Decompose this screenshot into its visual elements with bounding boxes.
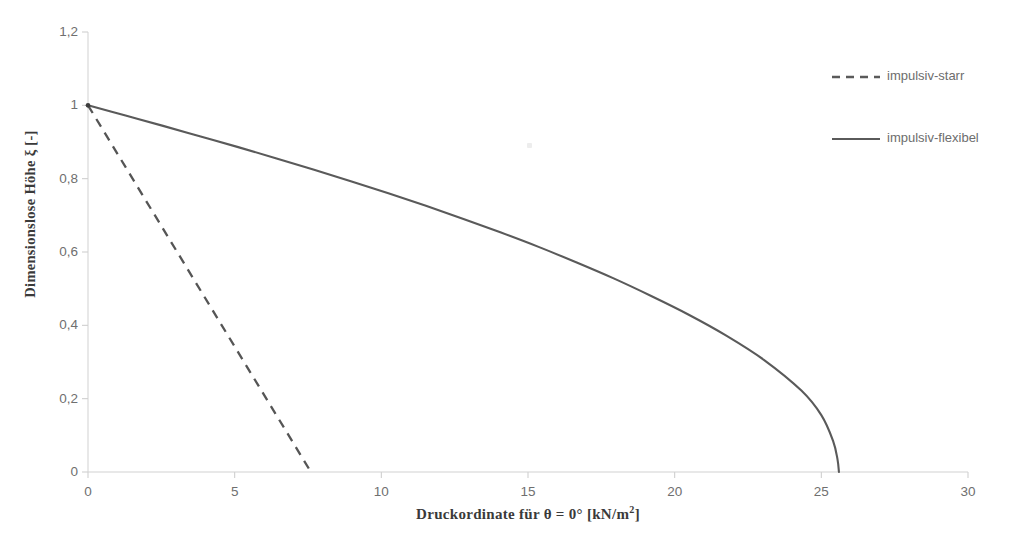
- x-axis-title: Druckordinate für θ = 0° [kN/m2]: [88, 506, 968, 523]
- series-start-marker: [86, 103, 91, 108]
- series-line-impulsiv-starr: [88, 105, 311, 472]
- x-axis-tick-label: 30: [960, 485, 975, 499]
- figure-container: 00,20,40,60,811,2 051015202530 Dimension…: [0, 0, 1011, 554]
- legend-label: impulsiv-starr: [887, 68, 964, 83]
- x-axis-tick-label: 5: [231, 485, 239, 499]
- x-axis-tick-label: 20: [667, 485, 682, 499]
- y-axis-tick-marks: [82, 32, 88, 472]
- legend-swatch-solid-icon: [832, 131, 880, 143]
- x-axis-tick-marks: [88, 472, 968, 478]
- x-axis-title-tail: ]: [635, 506, 640, 522]
- x-axis-tick-label: 10: [374, 485, 389, 499]
- y-axis-tick-label: 0,2: [30, 392, 78, 406]
- y-axis-tick-label: 1,2: [30, 25, 78, 39]
- scan-speck: [527, 143, 532, 148]
- y-axis-tick-label: 0,4: [30, 319, 78, 333]
- legend-swatch-dashed-icon: [832, 69, 880, 81]
- chart-legend: impulsiv-starrimpulsiv-flexibel: [832, 64, 1011, 188]
- y-axis-tick-label: 1: [30, 99, 78, 113]
- y-axis-tick-label: 0: [30, 465, 78, 479]
- x-axis-tick-label: 15: [520, 485, 535, 499]
- legend-item-impulsiv-starr[interactable]: impulsiv-starr: [832, 64, 1011, 86]
- x-axis-title-main: Druckordinate für θ = 0° [kN/m: [416, 506, 629, 522]
- x-axis-tick-label: 25: [814, 485, 829, 499]
- legend-label: impulsiv-flexibel: [887, 130, 979, 145]
- legend-item-impulsiv-flexibel[interactable]: impulsiv-flexibel: [832, 126, 1011, 148]
- y-axis-title: Dimensionslose Höhe ξ [-]: [22, 130, 39, 297]
- x-axis-tick-label: 0: [84, 485, 92, 499]
